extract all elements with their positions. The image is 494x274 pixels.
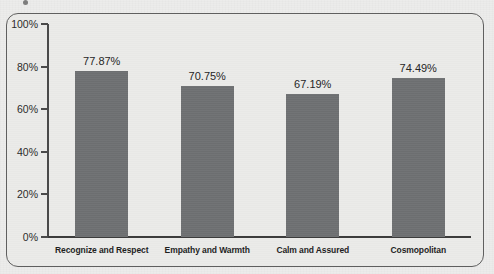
bar-value-label: 77.87% — [62, 56, 142, 67]
y-tick-label: 0% — [23, 232, 38, 243]
x-axis-category-label: Cosmopolitan — [363, 246, 473, 255]
bar — [392, 78, 445, 237]
y-tick-mark — [41, 108, 48, 110]
x-axis-category-label: Recognize and Respect — [47, 246, 157, 255]
y-tick-label: 40% — [17, 147, 38, 158]
y-tick-label: 100% — [11, 19, 38, 30]
x-axis-category-label: Calm and Assured — [258, 246, 368, 255]
y-axis-tick-labels: 100%80%60%40%20%0% — [0, 0, 38, 274]
bar — [75, 71, 128, 237]
bar — [286, 94, 339, 237]
y-tick-mark — [41, 151, 48, 153]
bar-value-label: 70.75% — [167, 71, 247, 82]
y-tick-label: 80% — [17, 62, 38, 73]
x-axis-category-label: Empathy and Warmth — [152, 246, 262, 255]
bar-value-label: 67.19% — [273, 79, 353, 90]
y-tick-mark — [41, 66, 48, 68]
bar-value-label: 74.49% — [378, 63, 458, 74]
y-axis-line — [47, 24, 49, 238]
y-tick-mark — [41, 193, 48, 195]
y-tick-label: 60% — [17, 104, 38, 115]
bar — [181, 86, 234, 237]
y-tick-mark — [41, 23, 48, 25]
y-tick-label: 20% — [17, 189, 38, 200]
y-tick-mark — [41, 236, 48, 238]
